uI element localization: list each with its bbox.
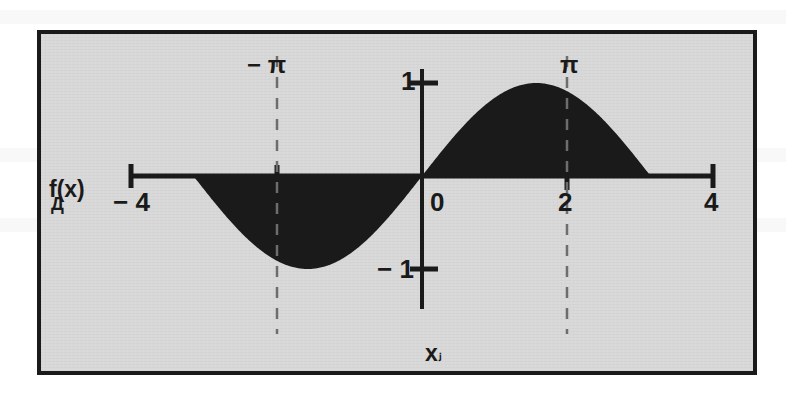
annotation-pi: π [560,53,578,77]
x-axis-label: x [425,342,438,365]
y-tick-label-minus-one: − 1 [377,256,414,282]
annotation-minus-pi: − π [247,53,286,77]
scanned-page: f(x) Д − 4 0 2 4 1 − 1 − π π x ⱼ [0,0,786,410]
x-tick-label-four: 4 [704,189,718,215]
x-axis-artifact-glyph: ⱼ [439,346,442,361]
x-tick-label-zero: 0 [430,189,444,215]
x-tick-label-minus4: − 4 [113,189,150,215]
figure-frame: f(x) Д − 4 0 2 4 1 − 1 − π π x ⱼ [37,30,757,375]
scan-noise-band [0,10,786,24]
y-axis-artifact-glyph: Д [51,195,64,213]
x-tick-label-two: 2 [558,189,572,215]
y-tick-label-one: 1 [401,68,415,94]
